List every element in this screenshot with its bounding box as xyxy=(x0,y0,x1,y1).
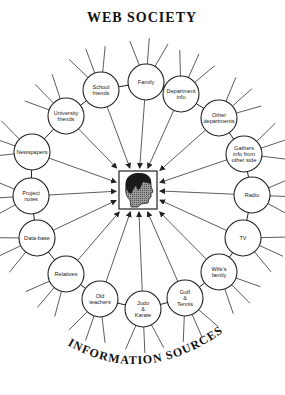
ray-line xyxy=(268,204,285,216)
ray-line xyxy=(261,140,285,148)
node-label: & xyxy=(183,295,187,301)
node-label: Radio xyxy=(245,192,260,198)
node-label: other side xyxy=(232,157,257,163)
ray-line xyxy=(0,179,14,189)
node-university-friends[interactable]: Universityfriends xyxy=(48,98,84,134)
ray-line xyxy=(0,154,14,157)
arrow-department-info xyxy=(148,110,174,168)
ring-link xyxy=(34,214,35,220)
node-relatives[interactable]: Relatives xyxy=(48,256,84,292)
ray-line xyxy=(1,121,19,140)
ring-link xyxy=(119,85,129,87)
node-label: School xyxy=(92,84,109,90)
node-golf-tennis[interactable]: Golf&Tennis xyxy=(167,280,203,316)
node-label: Family xyxy=(138,79,155,85)
ray-line xyxy=(270,196,285,197)
node-label: notes xyxy=(24,196,38,202)
diagram-title: WEB SOCIETY xyxy=(87,10,197,25)
ray-line xyxy=(261,237,285,238)
node-label: Data-base xyxy=(24,235,50,241)
node-label: Department xyxy=(166,88,196,94)
node-judo-karate[interactable]: Judo&Karate xyxy=(125,291,161,327)
node-data-base[interactable]: Data-base xyxy=(19,220,55,256)
node-label: friends xyxy=(93,90,110,96)
ring-link xyxy=(80,101,86,106)
ray-line xyxy=(103,46,105,72)
arrow-gathers-info xyxy=(160,160,227,183)
ray-line xyxy=(0,246,21,257)
ring-link xyxy=(48,252,54,260)
arrow-university-friends xyxy=(79,129,117,168)
ray-line xyxy=(144,327,145,353)
node-label: Judo xyxy=(137,300,149,306)
ring-link xyxy=(247,172,248,178)
ring-link xyxy=(160,303,167,305)
node-label: University xyxy=(54,110,79,116)
node-gathers-info[interactable]: Gathersinfo fromother side xyxy=(226,136,262,172)
arrow-project-notes xyxy=(49,191,116,195)
ray-line xyxy=(52,74,60,99)
arrow-golf-tennis xyxy=(148,212,178,281)
node-radio[interactable]: Radio xyxy=(234,177,270,213)
arrow-radio xyxy=(160,191,234,194)
ray-line xyxy=(257,123,276,141)
node-label: Other xyxy=(212,112,226,118)
node-label: TV xyxy=(239,235,246,241)
node-label: Relatives xyxy=(54,271,77,277)
ray-line xyxy=(183,316,184,342)
ray-line xyxy=(35,84,53,103)
node-tv[interactable]: TV xyxy=(225,220,261,256)
node-newspapers[interactable]: Newspapers xyxy=(14,134,50,170)
ring-link xyxy=(229,253,232,258)
ray-line xyxy=(199,310,219,327)
center-person xyxy=(119,171,157,209)
node-project-notes[interactable]: Projectnotes xyxy=(13,178,49,214)
arrow-old-teachers xyxy=(106,212,130,282)
ray-line xyxy=(180,50,181,76)
ray-line xyxy=(225,289,233,314)
ring-link xyxy=(199,283,204,287)
arrow-tv xyxy=(160,200,227,230)
ring-link xyxy=(44,129,53,139)
node-label: departments xyxy=(203,118,234,124)
ray-line xyxy=(0,205,15,218)
node-other-departments[interactable]: Otherdepartments xyxy=(201,100,237,136)
ray-line xyxy=(226,77,236,101)
arrow-data-base xyxy=(53,200,116,230)
ring-link xyxy=(229,133,233,139)
node-label: Old xyxy=(96,293,105,299)
ray-line xyxy=(55,291,62,316)
ray-line xyxy=(188,54,199,78)
arrow-school-friends xyxy=(107,107,130,168)
node-label: friends xyxy=(58,116,75,122)
ray-line xyxy=(86,316,95,341)
ray-line xyxy=(236,278,260,287)
ray-line xyxy=(195,66,215,83)
ray-line xyxy=(254,252,271,272)
node-department-info[interactable]: Departmentinfo xyxy=(163,76,199,112)
ring-link xyxy=(247,213,249,221)
node-school-friends[interactable]: Schoolfriends xyxy=(83,72,119,108)
node-label: & xyxy=(141,306,145,312)
ring-link xyxy=(118,303,126,305)
ray-line xyxy=(0,137,15,146)
ray-line xyxy=(147,38,149,64)
arrow-newspapers xyxy=(49,158,116,182)
ray-line xyxy=(236,106,261,113)
node-old-teachers[interactable]: Oldteachers xyxy=(82,281,118,317)
ray-line xyxy=(0,197,13,198)
node-label: family xyxy=(212,272,227,278)
node-label: teachers xyxy=(89,299,111,305)
node-label: info xyxy=(176,94,185,100)
node-label: Karate xyxy=(135,312,151,318)
node-wifes-family[interactable]: Wife'sfamily xyxy=(201,254,237,290)
ray-line xyxy=(269,178,285,188)
node-label: Golf xyxy=(180,289,191,295)
node-label: Gathers xyxy=(234,145,254,151)
arrow-relatives xyxy=(78,212,119,260)
ray-line xyxy=(130,41,140,65)
node-family[interactable]: Family xyxy=(128,64,164,100)
information-sources-diagram: WEB SOCIETY FamilyDepartmentinfoOtherdep… xyxy=(0,0,285,395)
arrow-family xyxy=(140,100,145,168)
ray-line xyxy=(86,49,95,73)
